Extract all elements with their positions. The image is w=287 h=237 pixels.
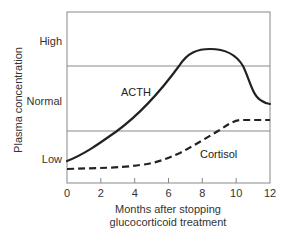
y-label-low: Low [42,153,62,165]
y-axis-title: Plasma concentration [12,47,24,153]
x-axis-title-line1: Months after stopping [115,203,221,215]
acth-label: ACTH [121,86,151,98]
cortisol-label: Cortisol [200,148,237,160]
x-tick-10: 10 [230,187,242,199]
x-tick-labels: 0 2 4 6 8 10 12 [64,187,276,199]
chart: 0 2 4 6 8 10 12 High Normal Low Plasma c… [0,0,287,237]
x-tick-12: 12 [264,187,276,199]
y-label-normal: Normal [27,95,62,107]
x-tick-0: 0 [64,187,70,199]
x-tick-8: 8 [199,187,205,199]
x-ticks [101,178,236,183]
x-axis-title-line2: glucocorticoid treatment [110,216,227,228]
x-tick-4: 4 [132,187,138,199]
x-tick-6: 6 [165,187,171,199]
x-tick-2: 2 [98,187,104,199]
y-label-high: High [39,35,62,47]
